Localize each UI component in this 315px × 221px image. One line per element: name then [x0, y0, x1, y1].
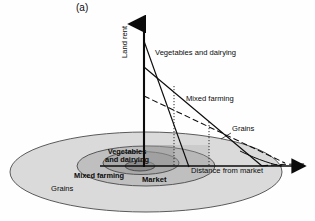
y-axis-label: Land rent [121, 26, 129, 58]
zone-label-grains: Grains [51, 185, 73, 193]
curve-label-mixed-farming: Mixed farming [186, 95, 234, 103]
zone-label-vegetables-and-dairying: Vegetables and dairying [99, 148, 155, 164]
curve-label-grains: Grains [232, 125, 254, 133]
x-axis-label: Distance from market [191, 167, 263, 175]
curve-label-vegetables-and-dairying: Vegetables and dairying [155, 49, 236, 57]
panel-tag: (a) [76, 3, 88, 14]
figure-canvas: (a) Vegetables and dairying Mixed farmin… [0, 0, 315, 221]
origin-label-market: Market [142, 176, 166, 184]
zone-label-vegetables-line2: and dairying [105, 155, 149, 164]
von-thunen-diagram [0, 0, 315, 221]
zone-label-mixed-farming: Mixed farming [74, 172, 124, 180]
